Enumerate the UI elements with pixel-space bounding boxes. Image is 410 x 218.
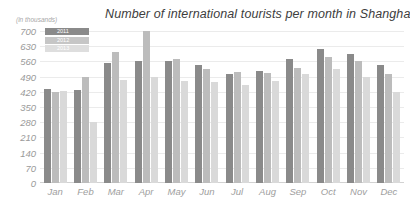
bar-jan-2013[interactable] xyxy=(60,91,67,183)
bar-jan-2011[interactable] xyxy=(44,89,51,183)
bar-may-2013[interactable] xyxy=(181,81,188,183)
x-axis-tick-label: Mar xyxy=(101,186,131,197)
bar-apr-2011[interactable] xyxy=(135,61,142,183)
bar-jul-2012[interactable] xyxy=(234,72,241,183)
x-axis-tick-label: Oct xyxy=(313,186,343,197)
y-axis-tick-label: 280 xyxy=(2,117,36,128)
bar-group-nov xyxy=(347,31,370,183)
x-axis-tick-label: Nov xyxy=(344,186,374,197)
bar-jun-2012[interactable] xyxy=(203,69,210,183)
chart-title: Number of international tourists per mon… xyxy=(105,7,405,21)
bar-apr-2013[interactable] xyxy=(151,77,158,183)
bar-nov-2012[interactable] xyxy=(355,61,362,183)
legend-label: 2011 xyxy=(45,28,69,35)
x-axis-tick-label: Apr xyxy=(131,186,161,197)
y-axis-tick-label: 350 xyxy=(2,102,36,113)
bar-nov-2011[interactable] xyxy=(347,54,354,183)
bar-dec-2013[interactable] xyxy=(393,92,400,183)
bar-group-may xyxy=(165,31,188,183)
x-axis-tick-label: Jan xyxy=(40,186,70,197)
bar-group-dec xyxy=(377,31,400,183)
bar-jul-2011[interactable] xyxy=(226,74,233,183)
y-axis-tick-label: 420 xyxy=(2,86,36,97)
bar-feb-2012[interactable] xyxy=(82,77,89,183)
y-axis-unit-label: (in thousands) xyxy=(16,16,57,23)
bar-jun-2011[interactable] xyxy=(195,65,202,183)
y-axis-tick-label: 630 xyxy=(2,41,36,52)
y-axis-tick-label: 210 xyxy=(2,132,36,143)
y-axis-tick-label: 140 xyxy=(2,147,36,158)
x-axis-tick-label: Sep xyxy=(283,186,313,197)
bar-group-mar xyxy=(104,31,127,183)
bar-aug-2013[interactable] xyxy=(272,81,279,183)
x-axis-tick-label: Feb xyxy=(71,186,101,197)
legend-item-2012[interactable]: 2012 xyxy=(45,37,89,44)
bar-sep-2011[interactable] xyxy=(286,59,293,183)
legend-item-2013[interactable]: 2013 xyxy=(45,45,89,52)
bar-feb-2011[interactable] xyxy=(74,90,81,183)
y-axis: 700630560490420350280210140700 xyxy=(0,31,36,183)
bar-group-feb xyxy=(74,31,97,183)
y-axis-tick-label: 560 xyxy=(2,56,36,67)
plot-area xyxy=(40,31,404,183)
x-axis-tick-label: Jul xyxy=(222,186,252,197)
legend-label: 2013 xyxy=(45,45,69,52)
bar-group-aug xyxy=(256,31,279,183)
bar-sep-2012[interactable] xyxy=(294,68,301,183)
bar-mar-2012[interactable] xyxy=(112,52,119,183)
y-axis-tick-label: 700 xyxy=(2,26,36,37)
bar-oct-2012[interactable] xyxy=(325,57,332,183)
bar-aug-2012[interactable] xyxy=(264,73,271,183)
bar-nov-2013[interactable] xyxy=(363,77,370,183)
bar-dec-2012[interactable] xyxy=(385,74,392,183)
bar-apr-2012[interactable] xyxy=(143,31,150,183)
bar-oct-2013[interactable] xyxy=(333,69,340,183)
bar-mar-2013[interactable] xyxy=(120,80,127,183)
bar-group-sep xyxy=(286,31,309,183)
chart-container: (in thousands) Number of international t… xyxy=(0,0,410,218)
bar-group-jul xyxy=(226,31,249,183)
y-axis-tick-label: 490 xyxy=(2,71,36,82)
bar-may-2012[interactable] xyxy=(173,59,180,183)
bar-jun-2013[interactable] xyxy=(211,82,218,183)
x-axis: JanFebMarAprMayJunJulAugSepOctNovDec xyxy=(40,186,404,202)
bar-group-jan xyxy=(44,31,67,183)
bar-group-oct xyxy=(317,31,340,183)
x-axis-tick-label: Jun xyxy=(192,186,222,197)
bar-group-apr xyxy=(135,31,158,183)
x-axis-tick-label: Aug xyxy=(253,186,283,197)
bar-mar-2011[interactable] xyxy=(104,63,111,184)
y-axis-tick-label: 0 xyxy=(2,178,36,189)
bar-jul-2013[interactable] xyxy=(242,85,249,183)
bar-feb-2013[interactable] xyxy=(90,122,97,183)
legend-label: 2012 xyxy=(45,37,69,44)
bar-dec-2011[interactable] xyxy=(377,65,384,183)
bar-group-jun xyxy=(195,31,218,183)
bar-aug-2011[interactable] xyxy=(256,71,263,183)
x-axis-tick-label: May xyxy=(162,186,192,197)
bar-may-2011[interactable] xyxy=(165,61,172,183)
bar-jan-2012[interactable] xyxy=(52,92,59,183)
bar-oct-2011[interactable] xyxy=(317,49,324,183)
chart-legend: 201120122013 xyxy=(45,28,89,54)
y-axis-tick-label: 70 xyxy=(2,162,36,173)
legend-item-2011[interactable]: 2011 xyxy=(45,28,89,35)
x-axis-tick-label: Dec xyxy=(374,186,404,197)
bar-sep-2013[interactable] xyxy=(302,74,309,183)
